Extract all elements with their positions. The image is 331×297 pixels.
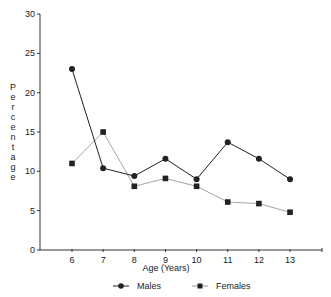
x-tick-label: 12: [254, 255, 264, 265]
x-tick-label: 6: [69, 255, 74, 265]
data-point: [256, 201, 262, 207]
data-point: [131, 173, 137, 179]
data-point: [100, 165, 106, 171]
data-point: [69, 161, 75, 167]
svg-text:P: P: [10, 82, 16, 92]
svg-text:e: e: [10, 122, 15, 132]
legend-label-females: Females: [216, 281, 251, 291]
data-point: [287, 176, 293, 182]
svg-text:n: n: [10, 132, 15, 142]
y-tick-label: 5: [30, 206, 35, 216]
svg-text:t: t: [12, 142, 15, 152]
legend-item-males: Males: [113, 281, 162, 291]
series-layer: [69, 66, 293, 215]
data-point: [69, 66, 75, 72]
svg-text:a: a: [10, 152, 15, 162]
y-axis-title: Percentage: [10, 82, 16, 182]
line-chart: 051015202530678910111213Age (Years)Perce…: [0, 0, 331, 297]
data-point: [100, 129, 106, 135]
data-point: [256, 156, 262, 162]
data-point: [163, 176, 169, 182]
data-point: [225, 199, 231, 205]
svg-text:e: e: [10, 92, 15, 102]
x-tick-label: 8: [132, 255, 137, 265]
svg-text:e: e: [10, 172, 15, 182]
data-point: [194, 183, 200, 189]
svg-text:c: c: [11, 112, 16, 122]
y-tick-label: 10: [25, 166, 35, 176]
series-females: [69, 129, 293, 215]
svg-text:r: r: [12, 102, 15, 112]
y-tick-label: 15: [25, 127, 35, 137]
x-tick-label: 10: [192, 255, 202, 265]
circle-marker-icon: [118, 283, 124, 289]
data-point: [194, 176, 200, 182]
legend: Males Females: [113, 281, 251, 291]
data-point: [132, 183, 138, 189]
legend-label-males: Males: [137, 281, 162, 291]
y-tick-label: 0: [30, 245, 35, 255]
data-point: [162, 156, 168, 162]
y-tick-label: 25: [25, 48, 35, 58]
x-tick-label: 13: [285, 255, 295, 265]
square-marker-icon: [198, 284, 203, 289]
y-tick-label: 20: [25, 88, 35, 98]
x-tick-label: 7: [101, 255, 106, 265]
x-axis-title: Age (Years): [142, 263, 189, 273]
svg-text:g: g: [10, 162, 15, 172]
x-tick-label: 11: [223, 255, 232, 265]
y-tick-label: 30: [25, 9, 35, 19]
legend-item-females: Females: [192, 281, 251, 291]
data-point: [225, 139, 231, 145]
data-point: [287, 209, 293, 215]
axes: 051015202530678910111213Age (Years)Perce…: [10, 9, 322, 273]
series-males: [69, 66, 293, 182]
